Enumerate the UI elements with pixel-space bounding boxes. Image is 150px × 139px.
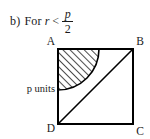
caption-item-label: b) [10,15,20,27]
hatched-sector [58,49,100,91]
caption-variable: r [42,15,52,27]
side-label-p-units: p units [27,83,55,94]
vertex-label-a: A [47,35,56,47]
caption-lead-word: For [20,15,41,27]
vertex-label-d: D [47,122,55,134]
fraction-numerator: p [63,8,73,21]
figure-panel: b) For r < p 2 [0,0,150,139]
square-diagram: A B C D p units [0,30,150,139]
caption-relation: < [51,15,62,27]
vertex-label-c: C [136,125,144,137]
vertex-label-b: B [136,35,144,47]
